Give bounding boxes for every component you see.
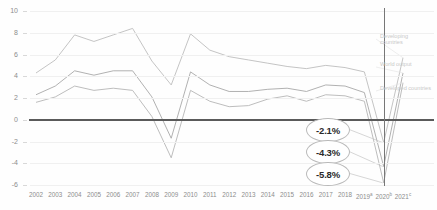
y-axis-tick-label: -4 — [2, 159, 18, 167]
gridline — [30, 142, 434, 143]
gridline — [30, 55, 434, 56]
zero-axis-line — [29, 119, 434, 121]
y-axis-tick-label: 6 — [2, 51, 18, 59]
gridline — [30, 76, 434, 77]
callout-58: -5.8% — [306, 162, 350, 186]
gridline — [30, 11, 434, 12]
y-axis-tick-mark — [23, 33, 27, 34]
y-axis-tick-mark — [23, 55, 27, 56]
gridline — [30, 33, 434, 34]
y-axis-tick-mark — [23, 120, 27, 121]
y-axis-tick-mark — [23, 76, 27, 77]
legend-connector-line — [376, 67, 403, 73]
y-axis-tick-mark — [23, 185, 27, 186]
callout-21: -2.1% — [306, 118, 350, 142]
y-axis-tick-mark — [23, 142, 27, 143]
legend-label-2: Developed countries — [380, 85, 432, 91]
y-axis-tick-mark — [23, 163, 27, 164]
y-axis-tick-label: 8 — [2, 29, 18, 37]
y-axis-tick-mark — [23, 98, 27, 99]
y-axis-tick-label: 2 — [2, 94, 18, 102]
callout-43: -4.3% — [306, 140, 350, 164]
series-lines — [0, 0, 437, 210]
gridline — [30, 98, 434, 99]
y-axis-tick-label: -6 — [2, 181, 18, 189]
plot-area: 1086420-2-4-6 20022003200420052006200720… — [0, 0, 437, 210]
callout-leader-line — [348, 173, 383, 183]
gridline — [30, 185, 434, 186]
y-axis-tick-label: 0 — [2, 116, 18, 124]
gridline — [30, 163, 434, 164]
y-axis-tick-mark — [23, 11, 27, 12]
y-axis-tick-label: 10 — [2, 7, 18, 15]
legend-label-0: Developing countries — [380, 33, 432, 46]
y-axis-tick-label: -2 — [2, 138, 18, 146]
legend-label-1: World output — [380, 61, 432, 67]
gdp-growth-line-chart: 1086420-2-4-6 20022003200420052006200720… — [0, 0, 437, 210]
x-axis-tick-label: 2021c — [391, 191, 415, 201]
y-axis-tick-label: 4 — [2, 72, 18, 80]
